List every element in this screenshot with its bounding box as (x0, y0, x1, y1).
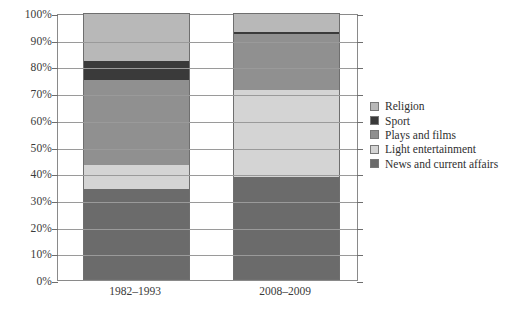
y-tick-label-0: 0% (4, 276, 52, 288)
y-tick-40-right (357, 175, 363, 176)
y-tick-10-left (52, 255, 58, 256)
legend-item-label: Religion (385, 100, 425, 112)
legend-item-label: News and current affairs (385, 158, 498, 170)
gridline-70 (58, 95, 357, 96)
y-tick-20-left (52, 229, 58, 230)
y-tick-80-left (52, 68, 58, 69)
y-tick-100-right (357, 15, 363, 16)
bar-outline (233, 13, 340, 280)
y-tick-label-30: 30% (4, 196, 52, 208)
gridline-90 (58, 42, 357, 43)
y-tick-label-60: 60% (4, 116, 52, 128)
y-tick-30-right (357, 202, 363, 203)
legend-item-religion: Religion (370, 99, 520, 113)
y-tick-100-left (52, 15, 58, 16)
gridline-30 (58, 202, 357, 203)
gridline-60 (58, 122, 357, 123)
legend-item-sport: Sport (370, 113, 520, 127)
y-tick-label-70: 70% (4, 89, 52, 101)
y-tick-70-left (52, 95, 58, 96)
y-tick-0-left (52, 282, 58, 283)
legend-item-label: Plays and films (385, 129, 456, 141)
legend-swatch-icon (370, 116, 379, 125)
legend-swatch-icon (370, 102, 379, 111)
y-tick-10-right (357, 255, 363, 256)
y-tick-90-left (52, 42, 58, 43)
gridline-20 (58, 229, 357, 230)
gridline-80 (58, 68, 357, 69)
legend-swatch-icon (370, 159, 379, 168)
y-tick-label-50: 50% (4, 143, 52, 155)
legend-swatch-icon (370, 130, 379, 139)
y-tick-50-right (357, 149, 363, 150)
stacked-bar-chart: 0%10%20%30%40%50%60%70%80%90%100% 1982–1… (0, 0, 524, 319)
x-tick-label-0: 1982–1993 (70, 285, 200, 298)
y-tick-20-right (357, 229, 363, 230)
legend-item-light-entertainment: Light entertainment (370, 142, 520, 156)
legend-item-label: Light entertainment (385, 143, 476, 155)
legend-item-plays-and-films: Plays and films (370, 128, 520, 142)
gridline-50 (58, 149, 357, 150)
plot-area (57, 14, 358, 281)
legend-swatch-icon (370, 145, 379, 154)
y-tick-label-80: 80% (4, 62, 52, 74)
gridline-10 (58, 255, 357, 256)
y-tick-0-right (357, 282, 363, 283)
legend-item-news-and-current-affairs: News and current affairs (370, 157, 520, 171)
y-axis: 0%10%20%30%40%50%60%70%80%90%100% (0, 14, 52, 281)
y-tick-90-right (357, 42, 363, 43)
y-tick-60-right (357, 122, 363, 123)
y-tick-label-40: 40% (4, 169, 52, 181)
y-tick-label-100: 100% (4, 9, 52, 21)
y-tick-60-left (52, 122, 58, 123)
y-tick-label-90: 90% (4, 36, 52, 48)
y-tick-80-right (357, 68, 363, 69)
y-tick-30-left (52, 202, 58, 203)
bar-outline (83, 13, 190, 280)
legend: ReligionSportPlays and filmsLight entert… (370, 99, 520, 171)
y-tick-50-left (52, 149, 58, 150)
gridline-40 (58, 175, 357, 176)
x-axis: 1982–1993 2008–2009 (57, 285, 358, 303)
x-tick-label-1: 2008–2009 (220, 285, 350, 298)
y-tick-label-10: 10% (4, 249, 52, 261)
y-tick-70-right (357, 95, 363, 96)
y-tick-40-left (52, 175, 58, 176)
legend-item-label: Sport (385, 115, 410, 127)
y-tick-label-20: 20% (4, 223, 52, 235)
